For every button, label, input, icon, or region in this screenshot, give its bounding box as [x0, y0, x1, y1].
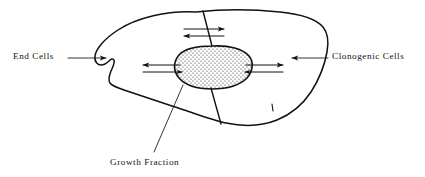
- figure-canvas: End Cells Clonogenic Cells Growth Fracti…: [0, 0, 425, 177]
- growth-fraction-label: Growth Fraction: [110, 158, 179, 167]
- clonogenic-cells-label: Clonogenic Cells: [332, 52, 404, 61]
- growth-fraction-region: [175, 46, 253, 89]
- cell-population-diagram: [0, 0, 425, 177]
- outline-tick-mark: [272, 104, 273, 111]
- end-cells-label: End Cells: [13, 52, 54, 61]
- growth-fraction-leader-line: [154, 85, 183, 152]
